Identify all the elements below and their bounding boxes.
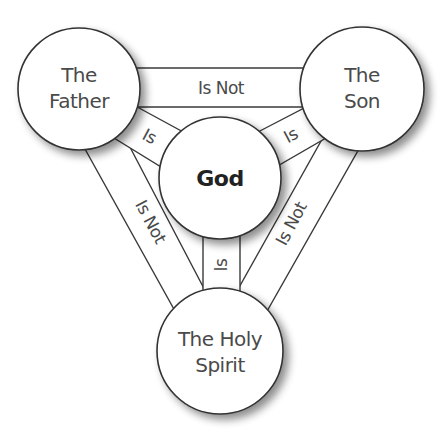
spirit-label-line2: Spirit [195,353,245,377]
son-label-line1: The [343,63,380,87]
trinity-diagram: The Father The Son God The Holy Spirit I… [0,0,445,441]
node-son: The Son [300,27,424,151]
god-label: God [196,166,243,191]
father-label-line2: Father [49,89,110,113]
node-father: The Father [18,28,140,150]
son-label-line2: Son [344,89,380,113]
label-spirit-god: Is [211,258,231,272]
father-label-line1: The [60,63,97,87]
spirit-label-line1: The Holy [177,327,263,351]
label-father-son: Is Not [198,78,245,98]
node-spirit: The Holy Spirit [157,288,283,414]
node-god: God [159,117,281,239]
